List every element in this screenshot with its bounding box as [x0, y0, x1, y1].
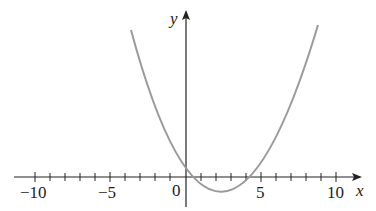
y-axis-label: y — [168, 9, 178, 28]
parabola-curve — [131, 25, 318, 192]
chart-canvas: −10 −5 0 5 10 x y — [0, 0, 376, 211]
tick-label-10: 10 — [327, 183, 344, 202]
x-axis-label: x — [355, 181, 364, 200]
tick-label-minus-10: −10 — [20, 183, 47, 202]
tick-label-minus-5: −5 — [98, 183, 116, 202]
tick-label-zero: 0 — [172, 181, 181, 200]
tick-label-5: 5 — [256, 183, 265, 202]
